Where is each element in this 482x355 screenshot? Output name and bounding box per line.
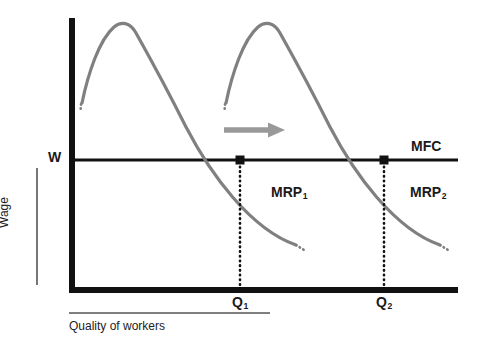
mfc-curve-label: MFC <box>411 139 441 153</box>
mrp2-start-tail <box>225 104 226 112</box>
mrp2-label-base: MRP <box>410 184 441 200</box>
x-axis-title: Quality of workers <box>69 320 165 332</box>
y-axis-title: Wage <box>0 197 10 228</box>
equilibrium-marker-q1 <box>236 156 245 165</box>
q2-label-sub: 2 <box>387 301 392 311</box>
shift-arrow-icon <box>224 123 285 138</box>
mrp1-label-base: MRP <box>271 184 302 200</box>
mrp1-start-tail <box>81 104 82 112</box>
mrp2-curve-label: MRP2 <box>410 185 446 199</box>
mrp1-curve-label: MRP1 <box>271 185 307 199</box>
mrp1-curve <box>82 23 296 245</box>
mrp1-end-tail <box>296 245 304 250</box>
mrp2-label-sub: 2 <box>442 191 447 201</box>
q1-label-base: Q <box>232 294 243 310</box>
q2-tick-label: Q2 <box>376 295 392 309</box>
chart-figure: W MFC MRP1 MRP2 Q1 Q2 Wage Quality of wo… <box>0 0 482 355</box>
q2-label-base: Q <box>376 294 387 310</box>
q1-tick-label: Q1 <box>232 295 248 309</box>
mrp2-end-tail <box>440 245 448 250</box>
mrp2-curve <box>226 23 440 245</box>
equilibrium-marker-q2 <box>380 156 389 165</box>
q1-label-sub: 1 <box>243 301 248 311</box>
mrp1-label-sub: 1 <box>303 191 308 201</box>
wage-level-label: W <box>48 150 61 164</box>
